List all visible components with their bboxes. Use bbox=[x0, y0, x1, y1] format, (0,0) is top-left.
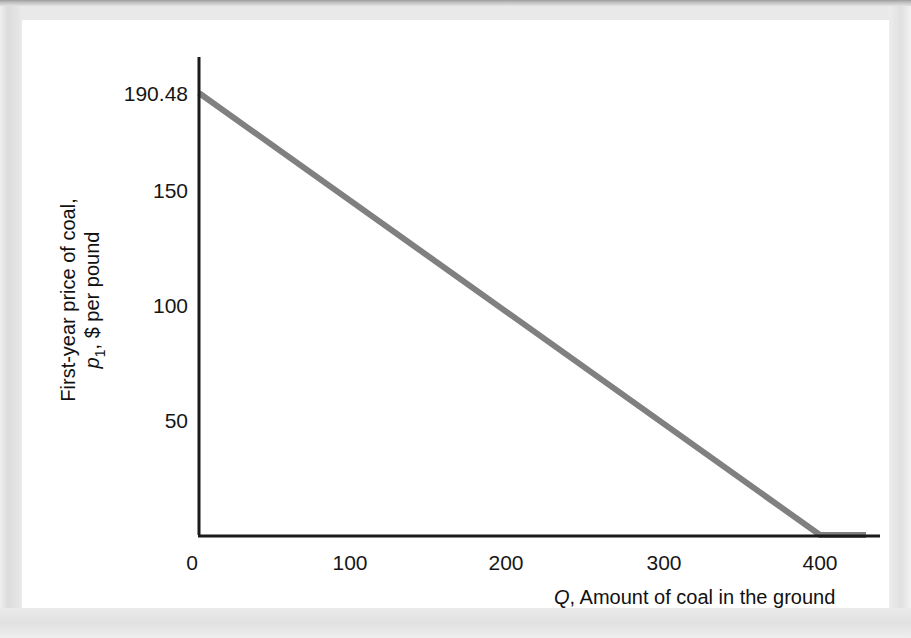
y-tick-label-100: 100 bbox=[153, 294, 188, 317]
x-axis-title-symbol: Q bbox=[554, 586, 570, 608]
demand-line-series bbox=[199, 93, 866, 535]
x-tick-label-100: 100 bbox=[332, 551, 367, 574]
y-axis-title-line1: First-year price of coal, bbox=[57, 198, 79, 401]
x-tick-label-300: 300 bbox=[646, 551, 681, 574]
plot-area: 190.48 150 100 50 0 100 200 300 400 Q, A… bbox=[0, 0, 911, 638]
demand-line bbox=[199, 93, 866, 535]
x-tick-label-0: 0 bbox=[186, 551, 198, 574]
x-tick-label-400: 400 bbox=[802, 551, 837, 574]
x-tick-label-200: 200 bbox=[488, 551, 523, 574]
chart-svg: 190.48 150 100 50 0 100 200 300 400 Q, A… bbox=[0, 0, 911, 638]
x-axis-title: Q, Amount of coal in the ground bbox=[554, 586, 835, 608]
y-axis-title-subscript: 1 bbox=[92, 349, 108, 357]
svg-text:p1, $ per pound: p1, $ per pound bbox=[81, 232, 108, 370]
y-axis-title-symbol: p bbox=[81, 357, 103, 369]
x-axis-title-rest: , Amount of coal in the ground bbox=[570, 586, 836, 608]
y-tick-label-150: 150 bbox=[153, 179, 188, 202]
y-axis-title-units: , $ per pound bbox=[81, 232, 103, 350]
y-axis-title: First-year price of coal, p1, $ per poun… bbox=[57, 198, 108, 401]
figure-page: 190.48 150 100 50 0 100 200 300 400 Q, A… bbox=[0, 0, 911, 638]
y-tick-label-50: 50 bbox=[165, 409, 188, 432]
svg-text:Q, Amount of coal in the groun: Q, Amount of coal in the ground bbox=[554, 586, 835, 608]
y-tick-label-190: 190.48 bbox=[124, 82, 188, 105]
